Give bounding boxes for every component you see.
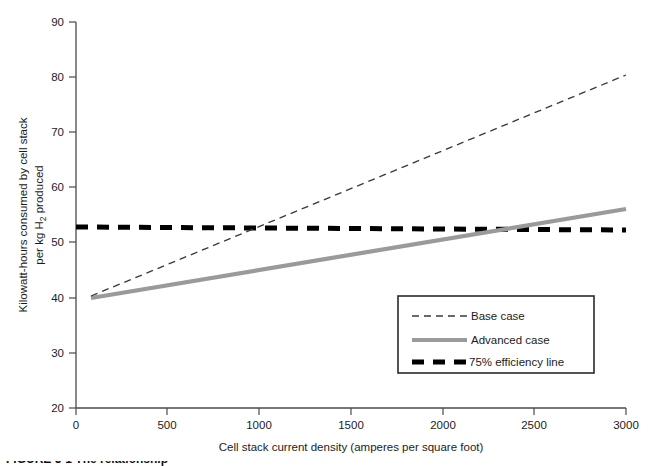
y-tick-marks <box>69 22 76 408</box>
series-base-case <box>91 75 626 296</box>
x-tick-marks <box>76 408 626 415</box>
y-tick-label-60: 60 <box>51 181 64 193</box>
y-axis-title-line2: per kg H2 produced <box>33 165 48 264</box>
y-tick-label-80: 80 <box>51 71 64 83</box>
y-tick-label-50: 50 <box>51 236 64 248</box>
y-tick-label-90: 90 <box>51 16 64 28</box>
y-tick-labels: 90 80 70 60 50 40 30 20 <box>51 16 64 414</box>
figure-container: 90 80 70 60 50 40 30 20 0 500 1000 1500 … <box>0 0 648 466</box>
y-tick-label-70: 70 <box>51 126 64 138</box>
y-tick-label-40: 40 <box>51 292 64 304</box>
y-axis-title: Kilowatt-hours consumed by cell stack pe… <box>17 117 48 312</box>
figure-caption: FIGURE 5-1 The relationship <box>6 461 306 466</box>
x-tick-label-2000: 2000 <box>430 419 456 431</box>
chart-canvas: 90 80 70 60 50 40 30 20 0 500 1000 1500 … <box>0 0 648 466</box>
x-axis-title: Cell stack current density (amperes per … <box>219 441 484 453</box>
y-axis-title-line1: Kilowatt-hours consumed by cell stack <box>17 117 29 312</box>
x-tick-label-0: 0 <box>73 419 79 431</box>
x-tick-label-1500: 1500 <box>338 419 364 431</box>
legend-label-advanced-case: Advanced case <box>471 334 550 346</box>
figure-caption-text: FIGURE 5-1 The relationship <box>6 461 306 466</box>
series-efficiency-line <box>76 227 626 230</box>
x-tick-label-2500: 2500 <box>521 419 547 431</box>
y-axis-title-line2-post: produced <box>33 165 45 216</box>
x-tick-label-500: 500 <box>157 419 176 431</box>
x-tick-label-1000: 1000 <box>246 419 272 431</box>
x-tick-label-3000: 3000 <box>613 419 639 431</box>
legend-label-efficiency-line: 75% efficiency line <box>469 356 564 368</box>
y-tick-label-30: 30 <box>51 347 64 359</box>
y-axis-title-line2-pre: per kg H <box>33 221 45 264</box>
legend[interactable]: Base case Advanced case 75% efficiency l… <box>398 296 594 373</box>
y-tick-label-20: 20 <box>51 402 64 414</box>
series-advanced-case <box>91 209 626 298</box>
x-tick-labels: 0 500 1000 1500 2000 2500 3000 <box>73 419 639 431</box>
legend-label-base-case: Base case <box>471 310 525 322</box>
